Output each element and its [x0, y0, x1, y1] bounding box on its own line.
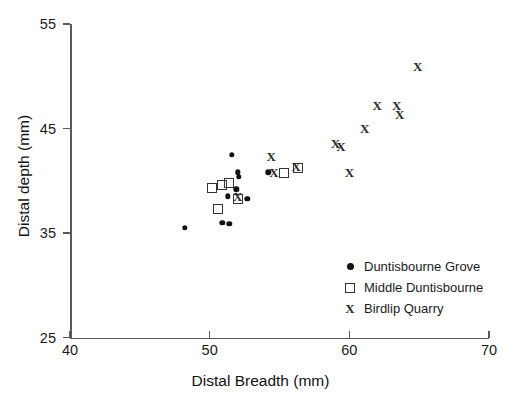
x-tick-70: [488, 331, 490, 338]
marker-x: X: [371, 99, 383, 113]
marker-filled-circle: [229, 152, 234, 157]
marker-open-square: [213, 204, 223, 214]
y-axis-label: Distal depth (mm): [15, 66, 33, 286]
x-axis-label: Distal Breadth (mm): [0, 372, 521, 390]
x-tick-60: [349, 331, 351, 338]
legend-item-1: Middle Duntisbourne: [340, 277, 510, 298]
legend-marker-open-square: [340, 280, 360, 296]
legend-marker-filled-circle: [340, 259, 360, 275]
marker-open-square: [224, 178, 234, 188]
y-tick-45: [63, 128, 70, 130]
marker-x: X: [344, 302, 356, 316]
marker-x: X: [290, 160, 302, 174]
x-tick-40: [69, 331, 71, 338]
x-tick-50: [209, 331, 211, 338]
x-axis-line: [70, 338, 489, 340]
marker-filled-circle: [182, 225, 187, 230]
legend-label: Birdlip Quarry: [360, 301, 443, 316]
marker-open-square: [279, 168, 289, 178]
x-tick-label-60: 60: [329, 343, 369, 358]
marker-open-square: [207, 183, 217, 193]
marker-x: X: [335, 140, 347, 154]
y-axis-line: [70, 24, 72, 339]
marker-filled-circle: [245, 196, 250, 201]
legend-label: Middle Duntisbourne: [360, 280, 483, 295]
marker-x: X: [343, 166, 355, 180]
marker-filled-circle: [347, 263, 354, 270]
marker-open-square: [345, 283, 355, 293]
y-tick-label-55: 55: [10, 17, 56, 32]
x-tick-label-40: 40: [50, 343, 90, 358]
marker-x: X: [359, 122, 371, 136]
y-tick-55: [63, 23, 70, 25]
marker-x: X: [232, 190, 244, 204]
legend-label: Duntisbourne Grove: [360, 259, 480, 274]
x-tick-label-50: 50: [190, 343, 230, 358]
legend-marker-x: X: [340, 301, 360, 317]
marker-x: X: [265, 150, 277, 164]
y-tick-35: [63, 232, 70, 234]
x-tick-label-70: 70: [469, 343, 509, 358]
marker-filled-circle: [227, 221, 232, 226]
marker-filled-circle: [225, 194, 230, 199]
marker-x: X: [412, 60, 424, 74]
scatter-plot-figure: 25354555 40506070 XXXXXXXXXXXX Distal Br…: [0, 0, 521, 416]
chart-legend: Duntisbourne GroveMiddle DuntisbourneXBi…: [340, 256, 510, 319]
marker-x: X: [394, 108, 406, 122]
legend-item-2: XBirdlip Quarry: [340, 298, 510, 319]
marker-x: X: [268, 166, 280, 180]
marker-filled-circle: [236, 174, 241, 179]
marker-filled-circle: [220, 220, 225, 225]
legend-item-0: Duntisbourne Grove: [340, 256, 510, 277]
